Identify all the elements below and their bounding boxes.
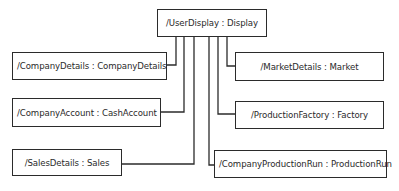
company-account-box: /CompanyAccount : CashAccount bbox=[12, 98, 161, 127]
market-details-box: /MarketDetails : Market bbox=[235, 52, 384, 81]
production-factory-box: /ProductionFactory : Factory bbox=[235, 101, 384, 129]
sales-details-label: /SalesDetails : Sales bbox=[25, 158, 110, 168]
connector-market-details bbox=[227, 36, 235, 66]
company-account-label: /CompanyAccount : CashAccount bbox=[17, 108, 157, 118]
user-display-box: /UserDisplay : Display bbox=[157, 9, 267, 37]
company-details-box: /CompanyDetails : CompanyDetails bbox=[12, 52, 167, 80]
connector-company-production-run bbox=[209, 36, 214, 165]
company-details-label: /CompanyDetails : CompanyDetails bbox=[17, 61, 166, 71]
object-diagram: /UserDisplay : Display /CompanyDetails :… bbox=[0, 0, 399, 191]
user-display-label: /UserDisplay : Display bbox=[166, 18, 258, 28]
connector-company-details bbox=[166, 36, 176, 65]
production-factory-label: /ProductionFactory : Factory bbox=[251, 110, 368, 120]
market-details-label: /MarketDetails : Market bbox=[261, 62, 359, 72]
company-production-run-label: /CompanyProductionRun : ProductionRun bbox=[219, 159, 392, 169]
sales-details-box: /SalesDetails : Sales bbox=[12, 149, 122, 176]
company-production-run-box: /CompanyProductionRun : ProductionRun bbox=[214, 150, 387, 178]
